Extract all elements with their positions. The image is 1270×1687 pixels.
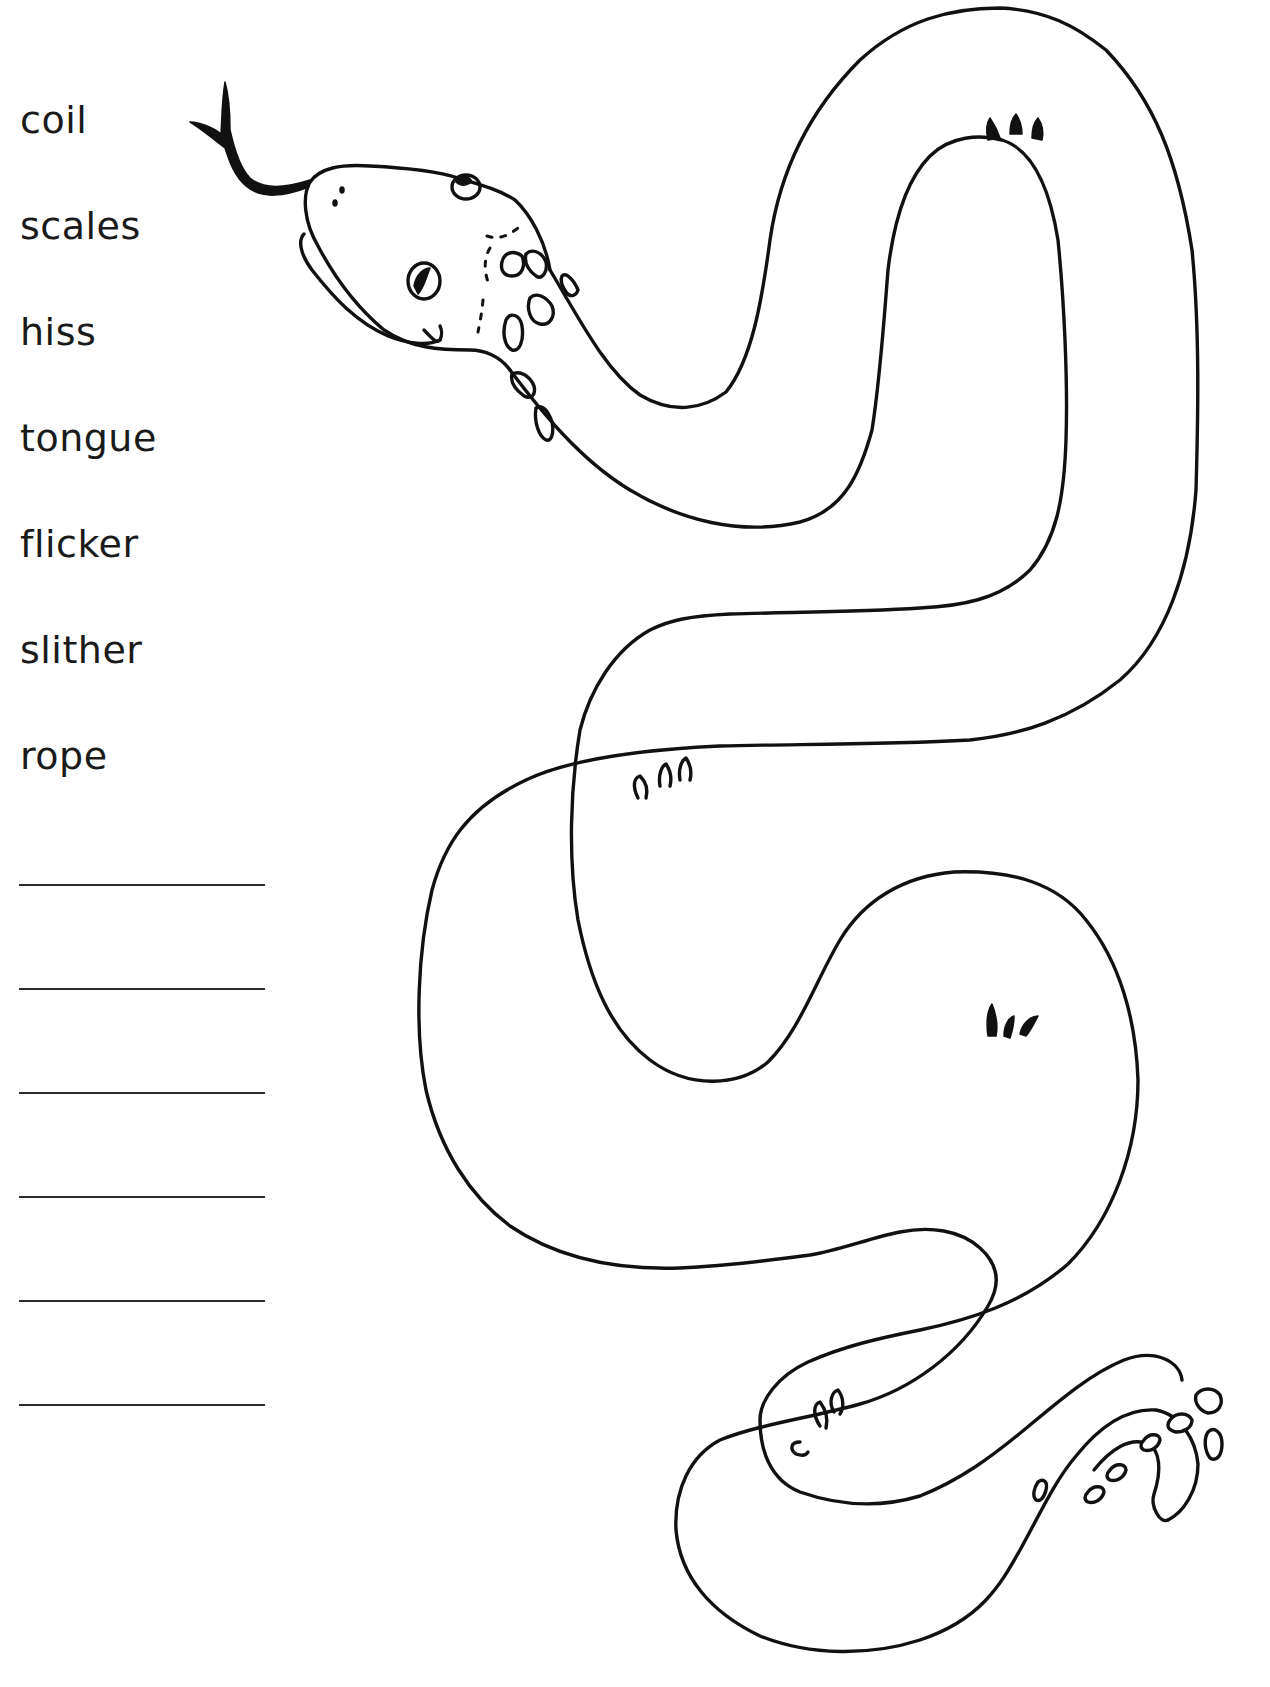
answer-line-6[interactable] — [19, 1404, 265, 1406]
snake-spot — [1196, 1389, 1222, 1413]
answer-line-2[interactable] — [19, 988, 265, 990]
snake-spike — [1032, 118, 1043, 140]
word-tongue: tongue — [20, 416, 260, 522]
snake-spike — [792, 1442, 808, 1455]
snake-spot — [1085, 1487, 1104, 1503]
snake-spike — [659, 764, 670, 786]
snake-body-inner-edge — [510, 137, 1182, 1504]
snake-neck-dash — [487, 228, 518, 238]
snake-spot — [1141, 1435, 1160, 1451]
snake-spot — [525, 251, 546, 277]
snake-tail-tip — [1094, 1442, 1168, 1521]
snake-brow-eye-icon — [452, 175, 480, 199]
word-hiss: hiss — [20, 310, 260, 416]
snake-spot — [1168, 1414, 1192, 1432]
snake-nostril — [340, 187, 344, 193]
snake-nostril — [333, 200, 337, 206]
snake-spot — [1205, 1430, 1222, 1460]
answer-line-5[interactable] — [19, 1300, 265, 1302]
word-rope: rope — [20, 734, 260, 840]
snake-spot — [512, 373, 535, 398]
snake-spot — [501, 253, 523, 276]
snake-spike — [1020, 1016, 1038, 1036]
snake-neck-dash — [485, 248, 490, 282]
snake-spot — [528, 295, 553, 324]
word-bank: coil scales hiss tongue flicker slither … — [20, 98, 260, 840]
answer-line-1[interactable] — [19, 884, 265, 886]
snake-lip-outline — [301, 234, 440, 343]
snake-spike — [634, 776, 646, 798]
snake-spot — [504, 315, 523, 350]
worksheet-page: coil scales hiss tongue flicker slither … — [0, 0, 1270, 1687]
snake-spike — [987, 1004, 997, 1036]
snake-spot — [1034, 1480, 1047, 1500]
snake-smile — [424, 326, 442, 341]
snake-pupil — [414, 268, 430, 294]
word-coil: coil — [20, 98, 260, 204]
word-scales: scales — [20, 204, 260, 310]
snake-spot — [1107, 1465, 1126, 1481]
snake-neck-dash — [478, 300, 483, 332]
snake-spot — [535, 407, 552, 440]
snake-eye-icon — [408, 263, 440, 299]
snake-head-outline — [310, 166, 550, 270]
snake-spike — [815, 1402, 827, 1428]
snake-spike — [1004, 1016, 1014, 1038]
snake-spike — [1010, 114, 1022, 134]
answer-line-4[interactable] — [19, 1196, 265, 1198]
answer-line-3[interactable] — [19, 1092, 265, 1094]
word-flicker: flicker — [20, 522, 260, 628]
snake-spike — [679, 758, 690, 780]
snake-jaw-outline — [305, 182, 510, 370]
snake-brow-pupil — [456, 176, 472, 185]
word-slither: slither — [20, 628, 260, 734]
snake-spike — [831, 1390, 843, 1414]
snake-spot — [561, 275, 578, 296]
snake-spike — [987, 118, 1000, 140]
snake-body-outer-edge — [419, 8, 1198, 1652]
